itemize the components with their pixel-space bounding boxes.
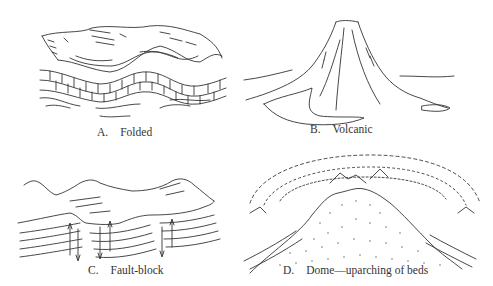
panel-dome: D.Dome—uparching of beds xyxy=(230,143,493,286)
caption-title: Fault-block xyxy=(111,264,164,276)
panel-fault-block: C.Fault-block xyxy=(0,143,240,286)
caption-folded: A.Folded xyxy=(97,126,152,138)
caption-title: Dome—uparching of beds xyxy=(306,264,428,276)
caption-letter: D. xyxy=(283,264,294,276)
caption-letter: C. xyxy=(88,264,99,276)
panel-volcanic: B.Volcanic xyxy=(240,0,493,143)
caption-letter: B. xyxy=(310,123,321,135)
panel-folded: A.Folded xyxy=(0,0,240,143)
caption-dome: D.Dome—uparching of beds xyxy=(283,264,428,276)
caption-title: Folded xyxy=(120,126,152,138)
caption-letter: A. xyxy=(97,126,108,138)
caption-volcanic: B.Volcanic xyxy=(310,123,373,135)
caption-title: Volcanic xyxy=(333,123,373,135)
caption-fault-block: C.Fault-block xyxy=(88,264,164,276)
volcano-illustration xyxy=(240,0,493,143)
folded-mountains-illustration xyxy=(0,0,240,143)
